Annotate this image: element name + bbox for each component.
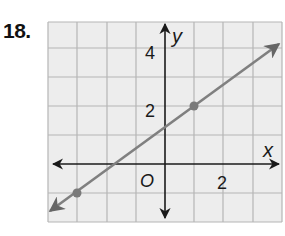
y-tick-4: 4 — [145, 43, 155, 63]
point-1-2 — [190, 102, 199, 111]
x-tick-2: 2 — [217, 173, 227, 193]
y-tick-2: 2 — [145, 101, 155, 121]
y-axis-label: y — [170, 25, 183, 47]
x-axis-label: x — [262, 139, 274, 161]
point-neg3-neg1 — [73, 189, 82, 198]
origin-label: O — [140, 171, 154, 191]
coordinate-graph: y x O 4 2 2 — [0, 0, 285, 236]
